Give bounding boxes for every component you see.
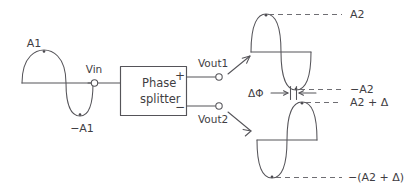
vout2-terminal-group[interactable]: Vout2 xyxy=(187,103,229,125)
phase-splitter-block[interactable]: Phase splitter + − xyxy=(121,67,187,116)
vout1-terminal-node[interactable] xyxy=(216,74,222,80)
input-waveform-group: A1 −A1 xyxy=(22,37,94,135)
output1-peak-marker xyxy=(265,14,268,17)
input-peak-marker xyxy=(43,50,46,53)
vin-terminal-node[interactable] xyxy=(91,80,97,86)
vout1-pointer-arrow-icon xyxy=(228,56,250,74)
vin-label: Vin xyxy=(86,63,103,75)
vout2-pointer-arrowhead-icon xyxy=(243,129,251,136)
phase-difference-label: ΔΦ xyxy=(248,87,263,99)
phase-splitter-label-line1: Phase xyxy=(142,76,176,90)
output2-peak-label: A2 + Δ xyxy=(350,96,389,109)
output2-waveform-group: A2 + Δ −(A2 + Δ) xyxy=(257,96,404,184)
vout2-label: Vout2 xyxy=(198,113,228,125)
output2-trough-label: −(A2 + Δ) xyxy=(348,171,404,184)
input-terminal-group[interactable]: Vin xyxy=(86,63,120,86)
input-trough-label: −A1 xyxy=(70,122,94,135)
positive-output-sign: + xyxy=(175,69,185,83)
output2-peak-marker xyxy=(301,102,304,105)
vout1-label: Vout1 xyxy=(198,57,228,69)
output2-trough-marker xyxy=(271,176,274,179)
diagram-canvas: A1 −A1 Vin Phase splitter + − Vout1 xyxy=(0,0,407,186)
vout1-terminal-group[interactable]: Vout1 xyxy=(187,57,229,80)
negative-output-sign: − xyxy=(175,100,185,114)
vout2-pointer-arrow-icon xyxy=(228,112,251,131)
output1-peak-label: A2 xyxy=(350,8,365,21)
phase-splitter-diagram: A1 −A1 Vin Phase splitter + − Vout1 xyxy=(0,0,407,186)
output1-trough-label: −A2 xyxy=(350,83,374,96)
input-peak-label: A1 xyxy=(27,37,42,50)
phase-difference-annotation: ΔΦ xyxy=(248,87,316,100)
input-trough-marker xyxy=(79,113,82,116)
vout2-terminal-node[interactable] xyxy=(216,103,222,109)
output1-waveform-group: A2 −A2 xyxy=(251,8,374,96)
